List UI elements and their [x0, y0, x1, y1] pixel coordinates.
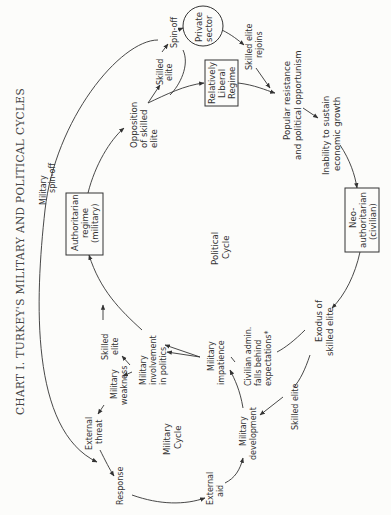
- private-sector-line-2: sector: [204, 15, 214, 42]
- cycle-diagram: CHART I. TURKEY'S MILITARY AND POLITICAL…: [0, 0, 391, 515]
- popular-resistance-label: Popular resistance and political opportu…: [282, 50, 303, 160]
- response-label: Response: [116, 467, 125, 506]
- military-impatience-label: Military impatience: [207, 339, 226, 385]
- military-development-label: Military development: [239, 407, 258, 460]
- exodus-label: Exodus of skilled elite: [314, 297, 335, 356]
- military-spin-off-label: Military spin-off: [39, 163, 57, 205]
- military-cycle-label: Military Cycle: [162, 420, 183, 455]
- liberal-line-2: Liberal: [217, 69, 227, 98]
- auth-line-1: Authoritarian: [70, 194, 80, 251]
- auth-line-3: (military): [90, 204, 100, 244]
- skilled-elite-top-label: Skilled elite: [156, 56, 174, 85]
- auth-line-2: regime: [80, 208, 90, 238]
- node-relatively-liberal-regime: Relatively Liberal Regime: [205, 59, 238, 106]
- liberal-line-3: Regime: [227, 67, 237, 99]
- neo-line-3: (civilian): [368, 203, 378, 240]
- skilled-elite-bottom-label: Skilled elite: [291, 384, 300, 430]
- skilled-elite-left-label: Skilled elite: [101, 331, 120, 360]
- civilian-admin-label: Civilian admin. falls behind expectation…: [244, 324, 273, 386]
- private-sector-line-1: Private: [194, 12, 204, 42]
- chart-title: CHART I. TURKEY'S MILITARY AND POLITICAL…: [14, 88, 26, 415]
- liberal-line-1: Relatively: [207, 62, 217, 104]
- node-authoritarian-regime: Authoritarian regime (military): [66, 192, 103, 255]
- military-involvement-label: Military involvement in politics: [139, 333, 168, 385]
- inability-label: Inability to sustain economic growth: [321, 93, 342, 175]
- node-neo-authoritarian: Neo- authoritarian (civilian): [345, 188, 379, 252]
- node-private-sector: Private sector: [183, 6, 223, 46]
- spin-off-label: Spin-off: [170, 17, 179, 48]
- neo-line-1: Neo-: [348, 208, 358, 228]
- neo-line-2: authoritarian: [358, 192, 368, 248]
- skilled-elite-rejoins-label: Skilled elite rejoins: [245, 21, 264, 70]
- external-aid-label: External aid: [206, 469, 225, 505]
- opposition-label: Opposition of skilled elite: [129, 99, 159, 148]
- political-cycle-label: Political Cycle: [210, 229, 231, 265]
- diagram-canvas: CHART I. TURKEY'S MILITARY AND POLITICAL…: [0, 0, 391, 515]
- external-threat-label: External threat: [85, 414, 104, 450]
- military-weakness-label: Military weakness: [110, 366, 129, 405]
